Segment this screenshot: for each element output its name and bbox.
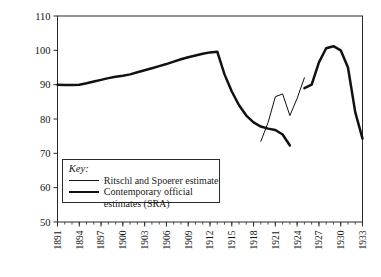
- x-tick-label: 1894: [75, 230, 85, 249]
- x-tick-label: 1933: [358, 230, 368, 249]
- legend-item-contemporary-official: Contemporary official estimates (SRA): [63, 186, 219, 209]
- chart-legend: Key: Ritschl and Spoerer estimate Contem…: [62, 159, 220, 203]
- x-tick-label: 1918: [249, 230, 259, 249]
- data-line-thick: [58, 52, 290, 146]
- x-tick-label: 1924: [293, 230, 303, 249]
- x-tick-label: 1903: [140, 230, 150, 249]
- y-axis-tick-labels: 5060708090100110: [35, 11, 51, 228]
- y-axis-ticks: [54, 16, 58, 222]
- legend-item-label: Contemporary official estimates (SRA): [104, 186, 219, 209]
- y-tick-label: 80: [40, 114, 51, 125]
- legend-title: Key:: [63, 160, 219, 175]
- x-tick-label: 1891: [53, 230, 63, 249]
- y-tick-label: 50: [40, 217, 51, 228]
- x-tick-label: 1906: [162, 230, 172, 249]
- legend-line-swatch-thin: [69, 180, 99, 181]
- x-axis-ticks: [58, 222, 363, 227]
- x-tick-label: 1930: [336, 230, 346, 249]
- y-tick-label: 60: [40, 182, 51, 193]
- x-tick-label: 1927: [314, 230, 324, 249]
- y-tick-label: 100: [35, 45, 51, 56]
- chart-container: 5060708090100110 18911894189719001903190…: [0, 0, 381, 277]
- x-tick-label: 1897: [96, 230, 106, 249]
- x-axis-tick-labels: 1891189418971900190319061909191219151918…: [53, 230, 368, 249]
- data-series-group: [58, 46, 363, 145]
- y-tick-label: 110: [35, 11, 50, 22]
- line-chart: 5060708090100110 18911894189719001903190…: [0, 0, 381, 277]
- legend-line-swatch-thick: [69, 191, 99, 193]
- x-tick-label: 1912: [205, 230, 215, 249]
- legend-item-label: Ritschl and Spoerer estimate: [104, 175, 219, 187]
- x-tick-label: 1915: [227, 230, 237, 249]
- x-tick-label: 1921: [271, 230, 281, 249]
- x-tick-label: 1909: [184, 230, 194, 249]
- data-line-thin: [261, 78, 305, 142]
- y-tick-label: 70: [40, 148, 51, 159]
- legend-item-ritschl-spoerer: Ritschl and Spoerer estimate: [63, 175, 219, 187]
- data-line-thick: [304, 46, 362, 138]
- x-tick-label: 1900: [118, 230, 128, 249]
- y-tick-label: 90: [40, 79, 51, 90]
